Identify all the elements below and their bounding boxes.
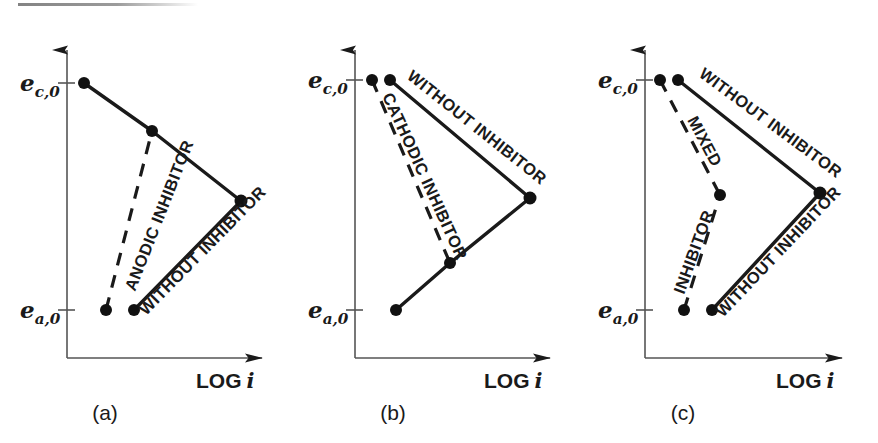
panel-b-label-ec0: ec,0 bbox=[308, 66, 348, 98]
panel-c-label-ea0: ea,0 bbox=[598, 296, 639, 328]
panel-c-marker-ec0 bbox=[672, 74, 684, 86]
panel-c-label-without-inhibitor-lower: WITHOUT INHIBITOR bbox=[712, 183, 844, 320]
panel-a-marker-ea0-inhibited bbox=[100, 304, 112, 316]
panel-b-x-axis-title: LOGi bbox=[484, 368, 543, 393]
panel-b-marker-ea0 bbox=[390, 304, 402, 316]
panel-c-label-mixed: MIXED bbox=[684, 113, 725, 169]
panel-c-marker-corrosion-inhibited bbox=[714, 189, 726, 201]
panel-a-label-ea0: ea,0 bbox=[20, 296, 61, 328]
figure-container: ec,0 ea,0 LOGi ANODIC INHIBITOR WIT bbox=[0, 0, 878, 443]
panel-b-marker-ec0 bbox=[384, 74, 396, 86]
panel-b-marker-ec0-inhibited bbox=[366, 74, 378, 86]
panel-b-marker-corrosion-uninhibited bbox=[524, 192, 537, 205]
panel-b-label-ea0: ea,0 bbox=[308, 296, 349, 328]
panel-a-caption: (a) bbox=[92, 401, 118, 424]
panel-a-marker-corrosion-inhibited bbox=[146, 125, 158, 137]
panel-a: ec,0 ea,0 LOGi ANODIC INHIBITOR WIT bbox=[20, 50, 269, 424]
scan-artifact-line bbox=[18, 3, 198, 6]
panel-c-marker-ea0-inhibited bbox=[678, 304, 690, 316]
panel-a-x-axis-title: LOGi bbox=[196, 368, 255, 393]
panel-b-caption: (b) bbox=[380, 401, 406, 424]
panel-c: ec,0 ea,0 LOGi MIXED INHIBITOR WITHOUT I… bbox=[598, 50, 846, 424]
panel-a-marker-ec0 bbox=[78, 77, 90, 89]
panel-c-label-ec0: ec,0 bbox=[598, 66, 638, 98]
panel-c-marker-ec0-inhibited bbox=[654, 74, 666, 86]
panel-a-label-ec0: ec,0 bbox=[20, 69, 60, 101]
evans-diagram-svg: ec,0 ea,0 LOGi ANODIC INHIBITOR WIT bbox=[0, 0, 878, 443]
panel-c-caption: (c) bbox=[671, 401, 696, 424]
panel-c-x-axis-title: LOGi bbox=[776, 368, 835, 393]
panel-b: ec,0 ea,0 LOGi CATHODIC INHIBITOR WITHOU… bbox=[308, 50, 550, 424]
